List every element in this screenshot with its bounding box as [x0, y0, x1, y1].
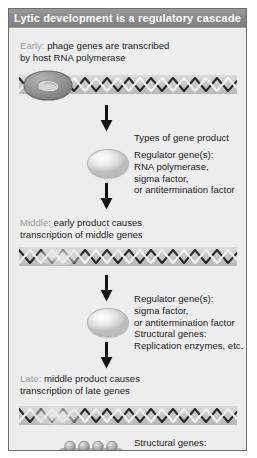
early-stage-label: Early: — [20, 40, 45, 51]
annotation-2-line-4: Replication enzymes, etc. — [134, 340, 243, 352]
down-arrow-3 — [100, 275, 113, 302]
annotation-2-line-0: Regulator gene(s): — [134, 293, 243, 305]
gene-product-oval-2 — [87, 308, 129, 337]
annotation-1-line-3: or antitermination factor — [134, 184, 235, 196]
late-stage-line1: middle product causes — [41, 373, 140, 384]
figure-panel: Lytic development is a regulatory cascad… — [8, 8, 247, 451]
annotation-2-line-3: Structural genes: — [134, 328, 243, 340]
types-of-gene-product-label: Types of gene product — [134, 132, 229, 144]
early-stage-text: Early: phage genes are transcribed by ho… — [20, 40, 169, 63]
rna-polymerase-icon — [22, 70, 74, 102]
gene-product-oval-1 — [87, 149, 129, 178]
middle-stage-text: Middle: early product causes transcripti… — [20, 217, 143, 240]
dna-helix-middle — [19, 247, 237, 266]
figure-canvas: Early: phage genes are transcribed by ho… — [9, 28, 246, 450]
annotation-3-line-0: Structural genes: — [134, 437, 217, 449]
middle-stage-line2: transcription of middle genes — [20, 229, 143, 241]
structural-genes-annotation: Structural genes: Phage components — [134, 437, 217, 451]
phage-component-chain-icon — [57, 440, 129, 451]
annotation-2-line-1: sigma factor, — [134, 305, 243, 317]
regulator-gene-annotation-2: Regulator gene(s): sigma factor, or anti… — [134, 293, 243, 352]
middle-stage-line1: early product causes — [51, 217, 142, 228]
late-stage-text: Late: middle product causes transcriptio… — [20, 373, 140, 396]
middle-stage-label: Middle: — [20, 217, 51, 228]
annotation-2-line-2: or antitermination factor — [134, 317, 243, 329]
down-arrow-2 — [100, 183, 113, 210]
early-stage-line1: phage genes are transcribed — [45, 40, 170, 51]
down-arrow-4 — [100, 342, 113, 369]
annotation-1-line-1: RNA polymerase, — [134, 161, 235, 173]
annotation-1-line-2: sigma factor, — [134, 173, 235, 185]
regulator-gene-annotation-1: Regulator gene(s): RNA polymerase, sigma… — [134, 149, 235, 196]
dna-helix-late — [19, 406, 237, 425]
annotation-3-line-1: Phage components — [134, 449, 217, 451]
late-stage-label: Late: — [20, 373, 41, 384]
figure-title-bar: Lytic development is a regulatory cascad… — [9, 9, 246, 28]
late-stage-line2: transcription of late genes — [20, 385, 140, 397]
early-stage-line2: by host RNA polymerase — [20, 52, 169, 64]
down-arrow-1 — [100, 105, 113, 132]
annotation-1-line-0: Regulator gene(s): — [134, 149, 235, 161]
page-title: Lytic development is a regulatory cascad… — [9, 9, 246, 28]
